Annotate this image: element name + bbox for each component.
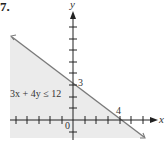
y-axis-arrow-icon	[70, 11, 76, 19]
x-axis-label: x	[159, 113, 164, 125]
inequality-label: 3x + 4y ≤ 12	[10, 88, 61, 99]
origin-label: 0	[65, 120, 70, 131]
y-intercept-label: 3	[78, 77, 83, 88]
problem-number: 7.	[0, 0, 10, 15]
graph	[0, 0, 165, 146]
x-intercept-label: 4	[116, 105, 121, 116]
x-axis-arrow-icon	[150, 117, 158, 123]
y-axis-label: y	[70, 0, 75, 10]
